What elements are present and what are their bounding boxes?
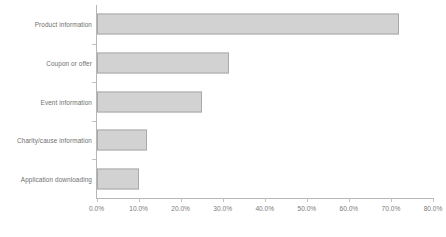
- x-axis-tick: [307, 198, 308, 202]
- y-axis-tick: [92, 82, 96, 83]
- bar: [97, 168, 140, 189]
- x-axis-tick: [223, 198, 224, 202]
- category-label: Coupon or offer: [2, 59, 92, 66]
- bar-chart: 0.0%10.0%20.0%30.0%40.0%50.0%60.0%70.0%8…: [0, 0, 446, 237]
- bar: [97, 14, 400, 35]
- category-label: Product information: [2, 21, 92, 28]
- y-axis-tick: [92, 44, 96, 45]
- x-axis-tick-label: 30.0%: [213, 205, 232, 212]
- y-axis-tick: [92, 121, 96, 122]
- x-axis-tick-label: 0.0%: [89, 205, 104, 212]
- x-axis-tick: [139, 198, 140, 202]
- y-axis-tick: [92, 159, 96, 160]
- x-axis-tick: [97, 198, 98, 202]
- x-axis-tick: [265, 198, 266, 202]
- x-axis-tick: [391, 198, 392, 202]
- x-axis-tick: [181, 198, 182, 202]
- x-axis-tick-label: 70.0%: [382, 205, 401, 212]
- x-axis-tick-label: 50.0%: [297, 205, 316, 212]
- category-label: Charity/cause information: [2, 137, 92, 144]
- category-label: Application downloading: [2, 175, 92, 182]
- x-axis-tick-label: 80.0%: [424, 205, 443, 212]
- x-axis-tick: [349, 198, 350, 202]
- category-label: Event information: [2, 98, 92, 105]
- x-axis-tick-label: 40.0%: [255, 205, 274, 212]
- bar: [97, 91, 202, 112]
- bar: [97, 52, 229, 73]
- x-axis-tick-label: 60.0%: [340, 205, 359, 212]
- x-axis-tick-label: 20.0%: [171, 205, 190, 212]
- x-axis-tick-label: 10.0%: [129, 205, 148, 212]
- x-axis-tick: [433, 198, 434, 202]
- bar: [97, 130, 148, 151]
